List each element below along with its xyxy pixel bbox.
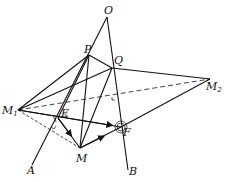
line-QM2: [112, 68, 210, 79]
label-F: F: [122, 126, 131, 139]
right-angle-mark-M1M2: [112, 97, 115, 100]
arrow-EM: [58, 118, 70, 134]
label-O: O: [104, 4, 113, 17]
label-M: M: [75, 152, 88, 165]
label-M1: M1: [1, 104, 18, 118]
geometry-diagram: O P Q M1 M2 E F M A B: [0, 0, 228, 182]
label-B: B: [128, 165, 137, 178]
label-A: A: [26, 164, 35, 177]
line-OB: [107, 17, 128, 170]
label-P: P: [83, 43, 92, 56]
label-M2: M2: [205, 80, 222, 94]
label-Q: Q: [114, 54, 123, 67]
line-M1M-dashed: [18, 110, 80, 148]
line-PQ: [89, 55, 112, 68]
line-M2F: [121, 79, 210, 127]
line-PM: [80, 55, 89, 148]
label-E: E: [60, 107, 69, 120]
